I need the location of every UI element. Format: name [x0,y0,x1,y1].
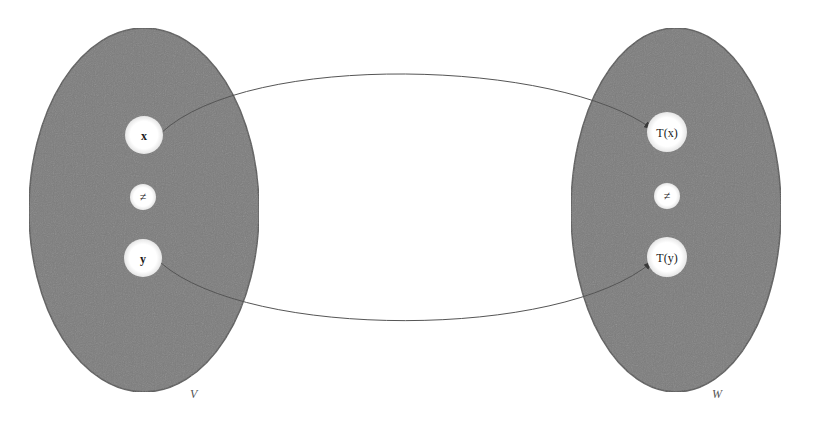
node-y: y [124,239,162,277]
set-w-ellipse [571,28,781,392]
set-v: V [29,28,259,401]
node-tx: T(x) [647,112,687,152]
set-v-label: V [190,387,199,401]
node-x-label: x [141,129,147,143]
set-w: W [571,28,781,401]
node-ty-label: T(y) [656,251,677,265]
set-w-label: W [712,387,723,401]
mapping-diagram: V W x ≠ y T(x) ≠ T(y) [0,0,819,423]
node-ty: T(y) [647,237,687,277]
not-equal-icon: ≠ [140,190,147,204]
not-equal-icon: ≠ [664,189,671,203]
node-x: x [125,116,163,154]
node-tx-label: T(x) [656,126,677,140]
node-neq-w: ≠ [654,183,680,209]
node-neq-v: ≠ [130,184,156,210]
node-y-label: y [140,252,146,266]
set-v-ellipse [29,28,259,392]
